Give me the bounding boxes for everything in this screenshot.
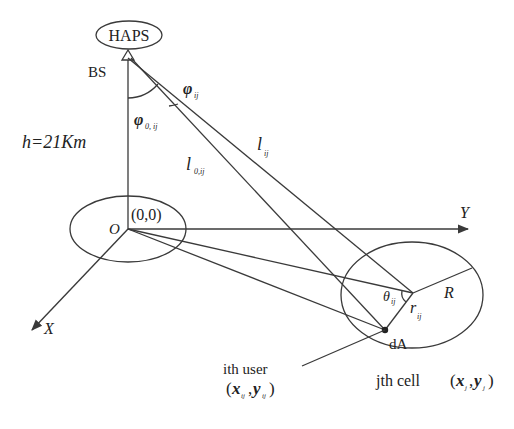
user-coord-label: ( x ij , y ij ) (226, 379, 275, 400)
svg-text:ij: ij (391, 297, 396, 306)
line-origin-to-cell-center (128, 229, 413, 293)
svg-text:ij: ij (194, 91, 199, 100)
r-ij-label: r ij (410, 299, 422, 321)
svg-text:j: j (464, 384, 467, 392)
user-pointer-line (302, 330, 385, 366)
svg-text:j: j (482, 384, 485, 392)
svg-text:,: , (469, 371, 473, 390)
haps-node: HAPS (96, 21, 162, 49)
y-axis-label: Y (460, 204, 471, 221)
svg-text:φ: φ (134, 111, 143, 129)
height-label: h=21Km (22, 132, 86, 152)
haps-label: HAPS (109, 27, 150, 44)
svg-text:r: r (410, 299, 417, 316)
svg-text:): ) (269, 379, 275, 398)
svg-text:l: l (257, 134, 262, 154)
l-0ij-label: l 0,ij (186, 154, 205, 176)
svg-text:ij: ij (264, 149, 269, 158)
svg-text:y: y (251, 379, 261, 398)
user-label: ith user (223, 361, 268, 377)
phi-ij-label: φ ij (183, 80, 199, 100)
l-ij-label: l ij (257, 134, 269, 158)
phi-0ij-label: φ 0, ij (134, 111, 158, 131)
bs-label: BS (88, 64, 106, 80)
svg-text:l: l (186, 154, 191, 174)
svg-text:ij: ij (262, 392, 266, 400)
svg-text:0, ij: 0, ij (145, 122, 158, 131)
origin-coord-label: (0,0) (131, 206, 162, 224)
svg-text:): ) (488, 371, 494, 390)
x-axis-label: X (43, 320, 55, 337)
svg-text:jth cell: jth cell (375, 372, 421, 390)
cell-coord-label: jth cell ( x j , y j ) (375, 371, 494, 392)
svg-text:y: y (472, 371, 482, 390)
origin-label: O (109, 221, 120, 237)
line-l0ij (128, 58, 413, 293)
theta-ij-label: θ ij (383, 289, 396, 306)
svg-text:φ: φ (183, 80, 192, 98)
svg-text:ij: ij (241, 392, 245, 400)
svg-text:θ: θ (383, 289, 390, 304)
angle-arc-theta (402, 291, 406, 302)
haps-geometry-diagram: HAPS BS φ ij φ 0, ij h=21Km l 0,ij l ij … (0, 0, 514, 429)
radius-label: R (443, 284, 454, 301)
svg-text:0,ij: 0,ij (194, 167, 205, 176)
dA-label: dA (389, 336, 408, 352)
svg-text:x: x (455, 371, 465, 390)
svg-text:ij: ij (417, 312, 422, 321)
x-axis (32, 229, 128, 330)
cell-radius-line (413, 268, 472, 293)
svg-text:,: , (248, 379, 252, 398)
svg-text:x: x (231, 379, 241, 398)
angle-arc-phi0 (128, 84, 158, 98)
line-lij (131, 58, 385, 330)
